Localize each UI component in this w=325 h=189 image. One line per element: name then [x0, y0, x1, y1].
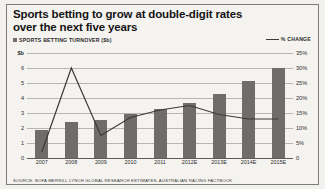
legend-line-series: % CHANGE: [266, 36, 311, 42]
x-axis-tick: 2014E: [241, 159, 257, 165]
y-axis-right-tick: 35%: [296, 50, 307, 56]
x-axis-tick: 2009: [95, 159, 107, 165]
plot-area: 0123456$b 05%10%15%20%25%30%35% 20072008…: [27, 53, 293, 158]
y-axis-left-tick: 1: [21, 140, 24, 146]
y-axis-right-tick: 10%: [296, 125, 307, 131]
legend-line-swatch-icon: [266, 39, 279, 40]
y-axis-left-tick: 5: [21, 80, 24, 86]
source-note: SOURCE: BOFA MERRILL LYNCH GLOBAL RESEAR…: [13, 178, 232, 183]
chart-figure: Sports betting to grow at double-digit r…: [0, 0, 325, 189]
y-axis-left-tick: 2: [21, 125, 24, 131]
x-axis-tick: 2015E: [270, 159, 286, 165]
chart-title: Sports betting to grow at double-digit r…: [13, 8, 263, 33]
y-axis-left-tick: $b: [17, 50, 24, 56]
percent-change-line: [42, 68, 278, 152]
y-axis-right-tick: 0: [296, 155, 299, 161]
x-axis-tick: 2007: [36, 159, 48, 165]
legend-line-label: % CHANGE: [281, 36, 311, 42]
x-axis-tick: 2008: [65, 159, 77, 165]
chart-title-line-2: over the next five years: [13, 21, 263, 34]
legend-bar-series: SPORTS BETTING TURNOVER ($b): [13, 37, 112, 43]
y-axis-right-tick: 30%: [296, 65, 307, 71]
y-axis-right-tick: 5%: [296, 140, 304, 146]
x-axis-tick: 2011: [154, 159, 166, 165]
y-axis-right-tick: 20%: [296, 95, 307, 101]
y-axis-right-tick: 15%: [296, 110, 307, 116]
x-axis-tick: 2013E: [211, 159, 227, 165]
y-axis-left-tick: 0: [21, 155, 24, 161]
legend-bar-label: SPORTS BETTING TURNOVER ($b): [19, 37, 112, 43]
y-axis-left-tick: 6: [21, 65, 24, 71]
legend-bar-swatch-icon: [13, 38, 17, 42]
line-series: [27, 53, 293, 158]
y-axis-left-tick: 4: [21, 95, 24, 101]
x-axis-tick: 2012E: [182, 159, 198, 165]
y-axis-right-tick: 25%: [296, 80, 307, 86]
y-axis-left-tick: 3: [21, 110, 24, 116]
x-axis-tick: 2010: [124, 159, 136, 165]
chart-title-line-1: Sports betting to grow at double-digit r…: [13, 8, 263, 21]
